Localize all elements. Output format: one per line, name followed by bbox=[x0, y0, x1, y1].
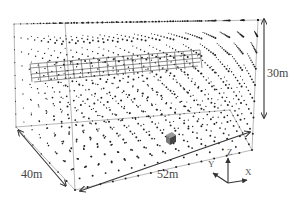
width-label: 52m bbox=[157, 168, 178, 180]
diagram-figure: 30m 40m 52m Z X Y bbox=[0, 0, 298, 209]
mesh-structure bbox=[30, 50, 202, 82]
bounding-box bbox=[14, 20, 262, 190]
x-axis-arrow bbox=[228, 180, 247, 183]
y-axis-arrow bbox=[213, 173, 228, 183]
cube bbox=[166, 132, 176, 145]
height-label: 30m bbox=[267, 67, 288, 79]
y-axis-label: Y bbox=[208, 160, 215, 169]
axis-triad bbox=[213, 158, 247, 183]
scene-svg bbox=[0, 0, 298, 209]
z-axis-label: Z bbox=[227, 148, 233, 157]
x-axis-label: X bbox=[245, 168, 252, 177]
point-grid bbox=[13, 19, 259, 191]
width-arrow bbox=[80, 132, 250, 191]
depth-label: 40m bbox=[21, 168, 42, 180]
